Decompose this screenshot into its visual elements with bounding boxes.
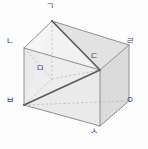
vertex-dot-bieup [23, 104, 25, 106]
vertex-label-rieul: ㄹ [126, 37, 134, 46]
vertex-label-bieup: ㅂ [6, 96, 14, 105]
vertex-label-mieum: ㅁ [36, 64, 44, 73]
faces [24, 21, 129, 126]
geometry-diagram [0, 0, 148, 149]
vertex-dot-giyeok [51, 20, 53, 22]
vertex-label-giyeok: ㄱ [46, 2, 54, 11]
vertex-label-ieung: ㅇ [126, 96, 134, 105]
figure-canvas: ㄱ ㄴ ㄷ ㄹ ㅁ ㅂ ㅅ ㅇ [0, 0, 148, 149]
vertex-label-digeut: ㄷ [90, 52, 98, 61]
vertex-label-siot: ㅅ [90, 127, 98, 136]
vertex-dot-digeut [99, 69, 101, 71]
vertex-label-nieun: ㄴ [6, 37, 14, 46]
